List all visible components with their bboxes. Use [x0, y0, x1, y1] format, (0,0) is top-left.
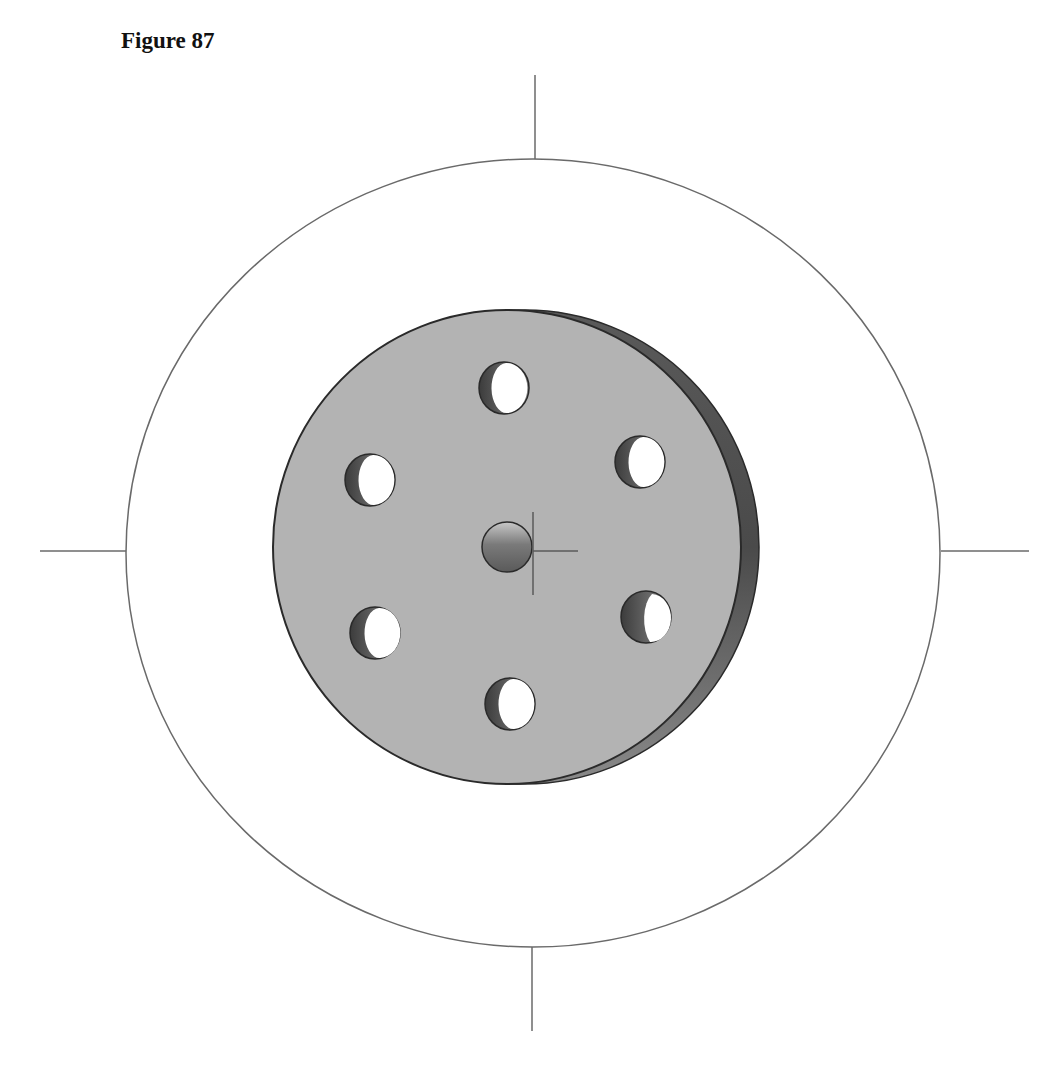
hole-top-right: [615, 436, 665, 488]
hole-bottom: [485, 678, 535, 730]
hole-bottom-left: [350, 607, 400, 659]
center-pin: [482, 522, 532, 572]
hole-top-left: [345, 454, 395, 506]
hole-top: [479, 362, 529, 414]
hole-bottom-right: [621, 591, 671, 643]
cad-drawing: [0, 0, 1055, 1069]
